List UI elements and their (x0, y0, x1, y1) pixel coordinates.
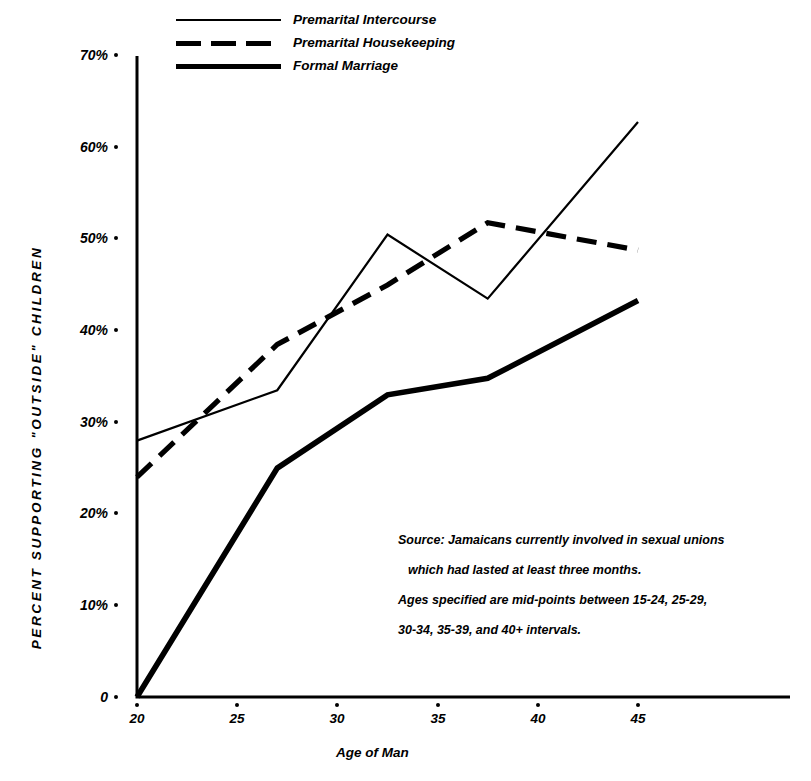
source-note: Source: Jamaicans currently involved in … (398, 525, 798, 645)
legend-item-premarital-intercourse: Premarital Intercourse (176, 8, 455, 31)
x-tick-35-marker (436, 703, 440, 707)
x-tick-25: 25 (217, 703, 257, 726)
chart-figure: PERCENT SUPPORTING "OUTSIDE" CHILDREN 70… (0, 0, 811, 781)
x-tick-40-label: 40 (530, 711, 545, 726)
x-tick-20-marker (135, 703, 139, 707)
source-note-line-2: which had lasted at least three months. (398, 555, 798, 585)
legend-item-formal-marriage: Formal Marriage (176, 54, 455, 77)
x-tick-25-marker (235, 703, 239, 707)
x-tick-35: 35 (418, 703, 458, 726)
legend-key-solid-thick-icon (176, 59, 281, 73)
legend-key-dashed-icon (176, 36, 281, 50)
plot-area (0, 0, 811, 781)
legend-label-premarital-intercourse: Premarital Intercourse (293, 12, 436, 27)
x-tick-45: 45 (618, 703, 658, 726)
legend-label-formal-marriage: Formal Marriage (293, 58, 398, 73)
x-tick-25-label: 25 (229, 711, 244, 726)
chart-legend: Premarital Intercourse Premarital Housek… (176, 8, 455, 77)
x-tick-20-label: 20 (129, 711, 144, 726)
legend-item-premarital-housekeeping: Premarital Housekeeping (176, 31, 455, 54)
x-tick-45-label: 45 (630, 711, 645, 726)
x-tick-35-label: 35 (430, 711, 445, 726)
series-premarital-housekeeping (137, 223, 638, 478)
x-tick-20: 20 (117, 703, 157, 726)
x-tick-45-marker (636, 703, 640, 707)
source-note-line-3: Ages specified are mid-points between 15… (398, 585, 798, 615)
x-tick-40-marker (536, 703, 540, 707)
x-tick-40: 40 (518, 703, 558, 726)
source-note-line-4: 30-34, 35-39, and 40+ intervals. (398, 615, 798, 645)
source-note-line-1: Source: Jamaicans currently involved in … (398, 525, 798, 555)
x-tick-30: 30 (317, 703, 357, 726)
legend-key-solid-thin-icon (176, 13, 281, 27)
x-tick-30-label: 30 (329, 711, 344, 726)
legend-label-premarital-housekeeping: Premarital Housekeeping (293, 35, 455, 50)
x-tick-30-marker (335, 703, 339, 707)
x-axis-title: Age of Man (336, 745, 409, 760)
